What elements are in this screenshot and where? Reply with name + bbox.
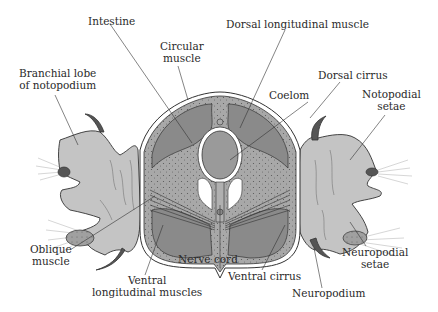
label-nerve-cord: Nerve cord [178, 253, 238, 265]
label-neuropodium: Neuropodium [292, 287, 365, 299]
right-parapodium [298, 116, 412, 258]
label-dorsal-longitudinal-muscle: Dorsal longitudinal muscle [226, 18, 369, 30]
label-ventral-longitudinal-muscles: Ventral longitudinal muscles [92, 274, 202, 298]
label-notopodial-setae: Notopodial setae [362, 88, 421, 112]
label-circular-muscle: Circular muscle [160, 40, 204, 64]
label-neuropodial-setae: Neuropodial setae [342, 246, 408, 270]
label-oblique-muscle: Oblique muscle [30, 243, 72, 267]
label-dorsal-cirrus: Dorsal cirrus [318, 69, 388, 81]
label-ventral-cirrus: Ventral cirrus [228, 270, 301, 282]
label-intestine: Intestine [88, 15, 135, 27]
label-coelom: Coelom [269, 89, 309, 101]
label-branchial-lobe: Branchial lobe of notopodium [19, 67, 96, 91]
